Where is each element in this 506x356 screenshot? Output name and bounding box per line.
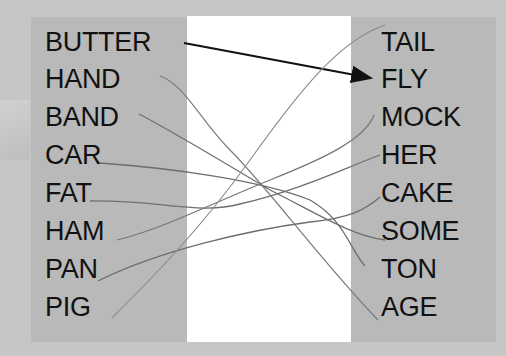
right-word-fly[interactable]: FLY (381, 64, 428, 94)
right-word-ton[interactable]: TON (381, 254, 437, 284)
right-word-mock[interactable]: MOCK (381, 102, 461, 132)
left-word-hand[interactable]: HAND (45, 64, 120, 94)
left-word-band[interactable]: BAND (45, 102, 119, 132)
right-word-some[interactable]: SOME (381, 216, 459, 246)
left-word-pig[interactable]: PIG (45, 292, 91, 322)
right-word-her[interactable]: HER (381, 140, 437, 170)
left-word-pan[interactable]: PAN (45, 254, 98, 284)
left-word-butter[interactable]: BUTTER (45, 27, 151, 57)
background-texture (0, 100, 30, 160)
center-matching-area (187, 16, 351, 342)
right-word-tail[interactable]: TAIL (381, 27, 435, 57)
left-word-fat[interactable]: FAT (45, 178, 92, 208)
right-word-cake[interactable]: CAKE (381, 178, 453, 208)
left-word-ham[interactable]: HAM (45, 216, 104, 246)
left-word-car[interactable]: CAR (45, 140, 101, 170)
right-word-age[interactable]: AGE (381, 292, 437, 322)
